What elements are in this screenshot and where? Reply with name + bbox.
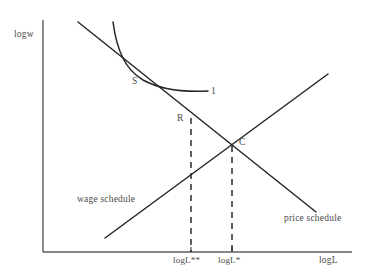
wage-schedule-label: wage schedule bbox=[77, 195, 135, 205]
price-schedule-line bbox=[78, 22, 316, 212]
price-schedule-label: price schedule bbox=[284, 214, 341, 224]
economics-diagram-figure: logw logL logL** logL* wage schedule pri… bbox=[0, 0, 371, 279]
x-axis-label: logL bbox=[319, 256, 338, 266]
y-axis-label: logw bbox=[14, 30, 34, 40]
tick-label-log-l-star: logL* bbox=[218, 256, 241, 265]
indifference-curve-1 bbox=[113, 22, 208, 91]
point-label-s: S bbox=[132, 77, 137, 87]
point-label-c: C bbox=[239, 138, 246, 148]
point-label-r: R bbox=[177, 114, 184, 124]
diagram-canvas bbox=[0, 0, 371, 279]
tick-label-log-l-double-star: logL** bbox=[173, 256, 200, 265]
indifference-curve-label: 1 bbox=[211, 87, 216, 97]
